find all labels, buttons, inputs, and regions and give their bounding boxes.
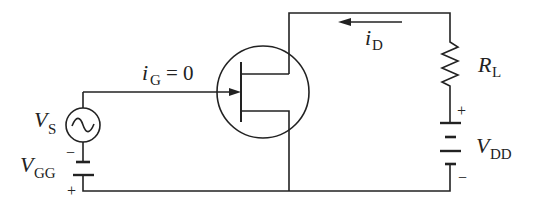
rl-sub: L [492, 64, 501, 80]
id-label: i [365, 25, 371, 50]
vs-sub: S [48, 121, 56, 137]
arrow-head-icon [338, 18, 351, 26]
vgg-plus: + [67, 182, 76, 199]
sine-wave-icon [72, 118, 94, 131]
gate-arrow-icon [229, 88, 241, 96]
ig-sub: G [150, 72, 161, 88]
vdd-sub: DD [490, 146, 512, 162]
ig-label: i [142, 60, 148, 85]
load-resistor [442, 38, 458, 123]
bottom-wire [83, 164, 450, 191]
source-wire [241, 111, 289, 191]
vgg-sub: GG [34, 165, 56, 181]
id-sub: D [372, 37, 383, 53]
vgg-minus: − [66, 144, 75, 161]
rl-label: R [477, 52, 492, 77]
ig-value: = 0 [166, 61, 194, 85]
vdd-minus: − [458, 169, 467, 186]
vdd-plus: + [457, 102, 466, 119]
circuit-diagram: i G = 0 i D R L V S V GG − + V DD + − [0, 0, 538, 211]
